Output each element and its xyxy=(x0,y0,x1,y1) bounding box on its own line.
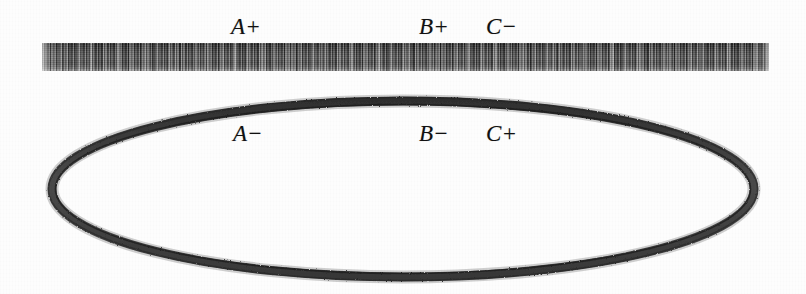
straight-segment xyxy=(42,43,769,71)
closed-curve xyxy=(44,92,762,286)
label-b-minus: B− xyxy=(419,122,449,145)
label-a-minus: A− xyxy=(233,122,263,145)
segment-right-edge-fade xyxy=(759,43,769,71)
label-a-plus: A+ xyxy=(231,15,261,38)
figure-canvas: A+ B+ C− A− B− C+ xyxy=(0,0,806,294)
curve-stroke xyxy=(52,101,754,277)
segment-scanline-texture xyxy=(42,43,769,71)
label-b-plus: B+ xyxy=(419,15,449,38)
label-c-minus: C− xyxy=(486,15,517,38)
label-c-plus: C+ xyxy=(486,122,517,145)
segment-left-edge-fade xyxy=(42,43,52,71)
